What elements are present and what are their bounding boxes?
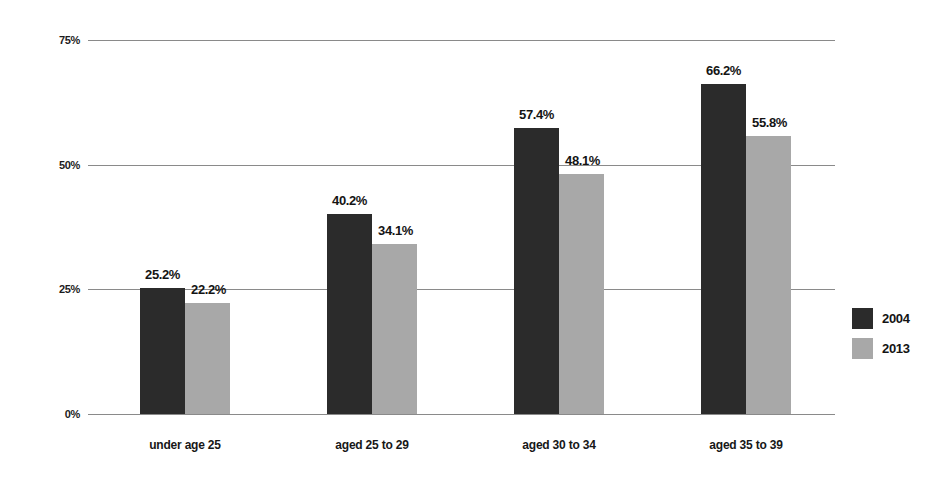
legend-item-2013: 2013 <box>852 333 910 363</box>
bar-value-label-2004-aged-35-to-39: 66.2% <box>687 63 760 78</box>
chart-legend: 2004 2013 <box>852 303 910 363</box>
bar-value-label-2013-aged-30-to-34: 48.1% <box>546 153 619 168</box>
axis-baseline-0 <box>88 414 835 415</box>
bar-value-label-2004-under-age-25: 25.2% <box>126 267 199 282</box>
bar-2013-under-age-25 <box>185 303 230 414</box>
y-tick-label-50: 50% <box>16 159 80 171</box>
gridline-75 <box>88 40 835 41</box>
x-axis-label-aged-25-to-29: aged 25 to 29 <box>292 438 452 452</box>
legend-label-2004: 2004 <box>882 311 910 326</box>
x-axis-label-under-age-25: under age 25 <box>105 438 265 452</box>
legend-swatch-2004-icon <box>852 308 873 329</box>
bar-2004-aged-30-to-34 <box>514 128 559 414</box>
bar-2004-aged-25-to-29 <box>327 214 372 414</box>
y-tick-label-25: 25% <box>16 283 80 295</box>
chart-canvas: 75% 50% 25% 0% 25.2% 22.2% under age 25 … <box>0 0 948 485</box>
x-axis-label-aged-35-to-39: aged 35 to 39 <box>666 438 826 452</box>
bar-2013-aged-25-to-29 <box>372 244 417 414</box>
y-tick-label-0: 0% <box>16 408 80 420</box>
bar-value-label-2013-under-age-25: 22.2% <box>172 282 245 297</box>
x-axis-label-aged-30-to-34: aged 30 to 34 <box>479 438 639 452</box>
legend-swatch-2013-icon <box>852 338 873 359</box>
legend-item-2004: 2004 <box>852 303 910 333</box>
bar-value-label-2013-aged-35-to-39: 55.8% <box>733 115 806 130</box>
bar-2013-aged-35-to-39 <box>746 136 791 414</box>
bar-value-label-2004-aged-25-to-29: 40.2% <box>313 193 386 208</box>
bar-2013-aged-30-to-34 <box>559 174 604 414</box>
y-tick-label-75: 75% <box>16 34 80 46</box>
legend-label-2013: 2013 <box>882 341 910 356</box>
bar-value-label-2004-aged-30-to-34: 57.4% <box>500 107 573 122</box>
bar-2004-under-age-25 <box>140 288 185 414</box>
bar-2004-aged-35-to-39 <box>701 84 746 414</box>
bar-value-label-2013-aged-25-to-29: 34.1% <box>359 223 432 238</box>
